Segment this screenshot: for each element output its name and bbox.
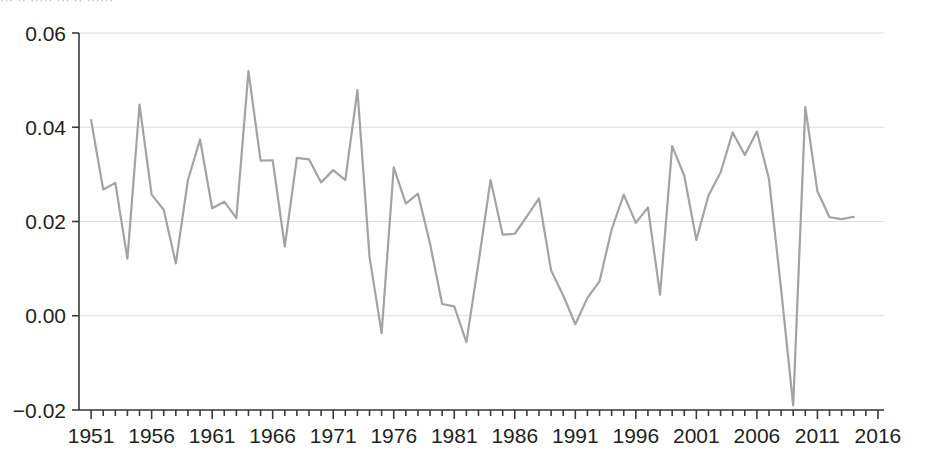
x-tick-label: 1961	[189, 424, 236, 447]
x-tick-label: 2011	[795, 424, 840, 447]
y-tick-labels: −0.020.000.020.040.06	[13, 22, 66, 422]
x-tick-label: 1971	[310, 424, 357, 447]
gridlines	[79, 33, 884, 410]
y-tick-label: 0.06	[25, 22, 66, 45]
x-tick-label: 2016	[855, 424, 902, 447]
x-tick-label: 1956	[128, 424, 175, 447]
x-tick-label: 1976	[370, 424, 417, 447]
series-line-1	[91, 71, 854, 405]
x-tick-labels: 1951195619611966197119761981198619911996…	[68, 424, 902, 447]
x-tick-label: 1951	[68, 424, 115, 447]
x-tick-label: 2001	[673, 424, 720, 447]
data-series	[91, 71, 854, 405]
x-axis	[79, 410, 884, 419]
chart-figure: ··· ·· ····· ··· ·· ······ −0.020.000.02…	[0, 0, 925, 452]
x-tick-label: 1996	[612, 424, 659, 447]
x-tick-label: 1991	[552, 424, 599, 447]
y-axis	[72, 33, 79, 410]
y-tick-label: 0.00	[25, 304, 66, 327]
x-tick-label: 1966	[249, 424, 296, 447]
y-tick-label: 0.04	[25, 116, 66, 139]
x-tick-label: 1986	[491, 424, 538, 447]
line-chart-plot: −0.020.000.020.040.06 195119561961196619…	[0, 0, 925, 452]
y-tick-label: −0.02	[13, 399, 66, 422]
x-tick-label: 2006	[734, 424, 781, 447]
x-tick-label: 1981	[431, 424, 478, 447]
y-tick-label: 0.02	[25, 210, 66, 233]
